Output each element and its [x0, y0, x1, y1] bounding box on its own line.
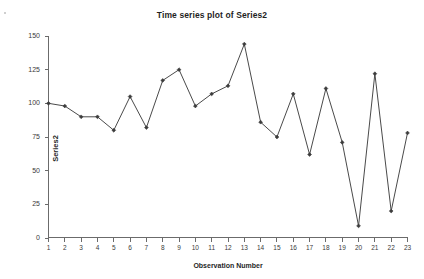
x-tick-label: 13	[236, 244, 252, 251]
x-tick-label: 12	[220, 244, 236, 251]
data-point-marker	[242, 42, 246, 46]
data-point-marker	[340, 140, 344, 144]
y-tick-label: 50	[6, 167, 40, 174]
data-point-marker	[291, 92, 295, 96]
x-tick-label: 3	[73, 244, 89, 251]
chart-title: Time series plot of Series2	[0, 10, 424, 20]
data-point-marker	[324, 87, 328, 91]
x-tick-label: 15	[269, 244, 285, 251]
x-tick-label: 6	[122, 244, 138, 251]
x-tick-label: 19	[334, 244, 350, 251]
data-point-marker	[357, 224, 361, 228]
x-tick-label: 4	[89, 244, 105, 251]
x-axis-ticks	[49, 238, 408, 242]
x-tick-label: 10	[187, 244, 203, 251]
data-point-marker	[308, 153, 312, 157]
x-axis-title: Observation Number	[48, 262, 408, 269]
x-tick-label: 18	[318, 244, 334, 251]
x-tick-label: 1	[41, 244, 57, 251]
x-tick-label: 16	[285, 244, 301, 251]
y-tick-label: 125	[6, 66, 40, 73]
plot-area: Series2	[48, 36, 408, 238]
data-point-marker	[145, 126, 149, 130]
y-tick-label: 150	[6, 32, 40, 39]
x-tick-label: 7	[138, 244, 154, 251]
series-plot-svg	[48, 36, 408, 238]
y-tick-label: 0	[6, 234, 40, 241]
series2-markers	[47, 42, 410, 228]
y-axis-ticks	[45, 36, 49, 238]
x-tick-label: 22	[383, 244, 399, 251]
data-point-marker	[373, 72, 377, 76]
data-point-marker	[226, 84, 230, 88]
data-point-marker	[389, 209, 393, 213]
chart-figure: Time series plot of Series2 Series2 0255…	[0, 0, 424, 279]
y-tick-label: 100	[6, 99, 40, 106]
data-point-marker	[47, 101, 51, 105]
y-tick-label: 75	[6, 133, 40, 140]
x-tick-label: 23	[400, 244, 416, 251]
y-axis-title: Series2	[51, 114, 60, 184]
x-tick-label: 5	[106, 244, 122, 251]
x-tick-label: 11	[204, 244, 220, 251]
x-tick-label: 14	[253, 244, 269, 251]
x-tick-label: 2	[57, 244, 73, 251]
y-tick-label: 25	[6, 200, 40, 207]
x-tick-label: 21	[367, 244, 383, 251]
x-tick-label: 8	[155, 244, 171, 251]
x-tick-label: 17	[302, 244, 318, 251]
data-point-marker	[128, 95, 132, 99]
x-tick-label: 9	[171, 244, 187, 251]
series2-line	[49, 44, 408, 226]
x-tick-label: 20	[351, 244, 367, 251]
data-point-marker	[406, 131, 410, 135]
